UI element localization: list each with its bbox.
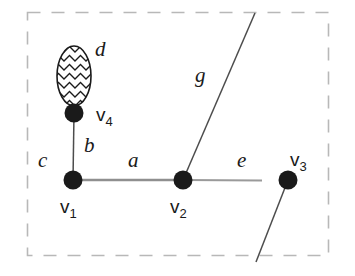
- edge-label-d: d: [95, 37, 106, 61]
- vertex-label-v1: v1: [60, 196, 77, 221]
- edge-label-c: c: [38, 148, 48, 172]
- vertex-label-v3: v3: [290, 149, 307, 174]
- half-edge-v3-dangling: [256, 180, 288, 262]
- graph-figure: d g b c a e v4 v1 v2 v3: [0, 0, 355, 276]
- vertex-v2[interactable]: [174, 171, 193, 190]
- vertex-label-v4: v4: [96, 104, 113, 129]
- figure-canvas: d g b c a e v4 v1 v2 v3: [0, 0, 355, 276]
- vertex-label-v2: v2: [170, 196, 187, 221]
- edge-label-a: a: [128, 148, 139, 172]
- vertex-v1[interactable]: [64, 171, 83, 190]
- edge-b: [73, 113, 74, 180]
- loop-d: [57, 46, 91, 106]
- vertex-v4[interactable]: [65, 104, 84, 123]
- half-edge-e: [183, 180, 262, 181]
- vertex-v3[interactable]: [279, 171, 298, 190]
- edge-label-e: e: [237, 148, 246, 172]
- edge-label-b: b: [84, 133, 95, 157]
- edge-label-g: g: [195, 63, 206, 87]
